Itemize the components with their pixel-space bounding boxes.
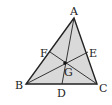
label-b: B bbox=[15, 79, 23, 92]
label-d: D bbox=[57, 87, 66, 100]
label-e: E bbox=[89, 47, 97, 60]
label-g: G bbox=[64, 66, 73, 79]
label-f: F bbox=[40, 47, 48, 60]
triangle-abc bbox=[26, 18, 97, 84]
label-a: A bbox=[69, 5, 79, 18]
label-c: C bbox=[99, 82, 107, 95]
centroid-point bbox=[63, 61, 67, 65]
triangle-diagram: A B C D E F G bbox=[0, 0, 112, 105]
